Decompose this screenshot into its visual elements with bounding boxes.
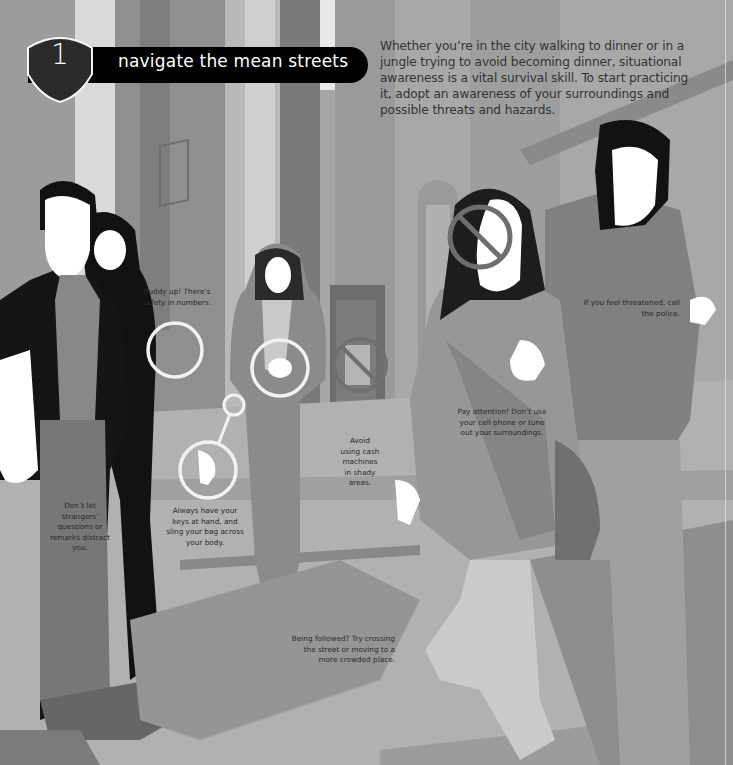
section-title: navigate the mean streets [118, 51, 348, 71]
tip-police: If you feel threatened, call the police. [580, 298, 680, 319]
tip-followed: Being followed? Try crossing the street … [285, 634, 395, 666]
section-number: 1 [24, 38, 96, 71]
illustrated-guide-page: 1 navigate the mean streets Whether you’… [0, 0, 733, 765]
intro-paragraph: Whether you’re in the city walking to di… [380, 38, 700, 118]
tip-strangers: Don’t let strangers’ questions or remark… [50, 501, 110, 554]
page-fold-line [725, 0, 726, 765]
tip-cash-machines: Avoid using cash machines in shady areas… [340, 436, 380, 489]
tip-keys: Always have your keys at hand, and sling… [164, 506, 246, 548]
tip-pay-attention: Pay attention! Don’t use your cell phone… [457, 407, 547, 439]
tip-buddy-up: Buddy up! There’s safety in numbers. [142, 287, 212, 308]
